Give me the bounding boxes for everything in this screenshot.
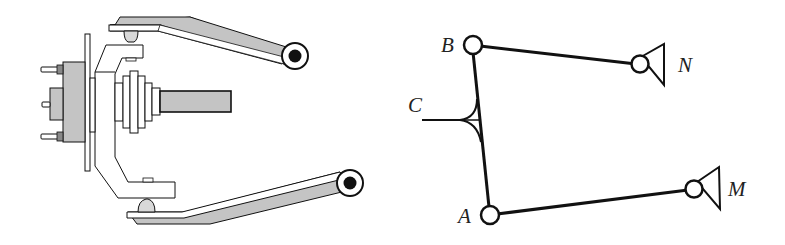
ground-pivot-m: [686, 167, 721, 209]
label-c: C: [408, 93, 423, 117]
drive-shaft: [160, 91, 231, 112]
lower-arm-bushing: [337, 170, 363, 196]
joint-b: [464, 36, 482, 54]
label-m: M: [727, 177, 747, 201]
lower-ball-joint: [138, 199, 155, 212]
wheel-hub: [50, 62, 85, 142]
ground-pivot-n: [632, 44, 665, 85]
label-b: B: [441, 33, 454, 57]
linkage-schematic: B A C N M: [400, 0, 785, 245]
attachment-c: [422, 99, 481, 142]
upper-arm-bushing: [282, 43, 308, 69]
cv-joint: [115, 71, 160, 133]
upper-ball-joint: [124, 31, 138, 42]
brake-rotor: [85, 34, 95, 171]
suspension-drawing: [0, 0, 400, 245]
label-n: N: [677, 53, 693, 77]
label-a: A: [456, 204, 471, 228]
link-b-n: [480, 46, 636, 64]
joint-a: [481, 206, 499, 224]
link-a-m: [497, 190, 688, 214]
suspension-illustration: [0, 0, 400, 245]
linkage-drawing: B A C N M: [400, 0, 785, 245]
